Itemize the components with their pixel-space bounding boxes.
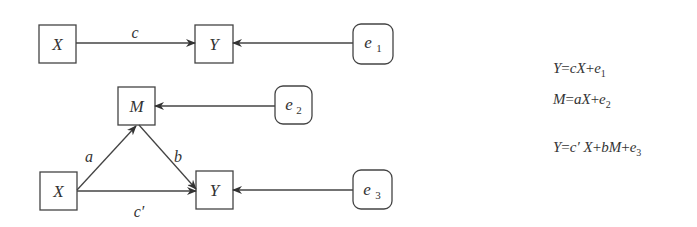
path-b-arrow [139,125,196,189]
path-b-label: b [174,148,182,165]
node-e1-label: e [364,33,372,52]
eq2-lhs: M [553,91,566,107]
eq2-equals: = [566,91,574,107]
node-e2 [275,86,312,124]
node-e1 [353,24,393,64]
eq2-var: X [581,91,590,107]
eq2-error: e [599,91,606,107]
node-y-2-label: Y [210,181,221,200]
eq1-equals: = [561,60,569,76]
eq1-error: e [594,60,601,76]
node-y-1-label: Y [209,35,220,54]
node-e3-label: e [363,180,371,199]
equation-2: M=aX+e2 [553,91,611,110]
eq3-plus-1: + [593,139,601,155]
eq3-term-bm: bM [601,139,621,155]
eq3-plus-2: + [621,139,629,155]
path-c-prime-label: c′ [134,203,145,220]
eq2-error-sub: 2 [606,99,611,110]
node-x-2-label: X [52,182,64,201]
path-a-label: a [85,148,93,165]
mediation-diagram: X Y e 1 c M e 2 X Y e 3 a b c′ [0,0,697,227]
node-e2-label: e [285,95,293,114]
model-1: X Y e 1 c [39,24,393,64]
node-m-label: M [128,97,144,116]
node-e3-subscript: 3 [375,189,381,201]
eq1-error-sub: 1 [601,68,606,79]
node-x-1-label: X [51,35,63,54]
equation-1: Y=cX+e1 [553,60,606,79]
node-e1-subscript: 1 [376,42,382,54]
eq3-error-sub: 3 [636,147,641,158]
eq1-plus: + [586,60,594,76]
model-2: M e 2 X Y e 3 a b c′ [40,86,392,220]
eq1-var: X [576,60,585,76]
eq3-equals: = [561,139,569,155]
path-c-label: c [131,24,138,41]
equation-3: Y=c′ X+bM+e3 [553,139,641,158]
eq3-coef-c: c′ [570,139,580,155]
node-e3 [353,170,392,209]
eq3-var-x: X [580,139,593,155]
eq2-plus: + [591,91,599,107]
node-e2-subscript: 2 [296,104,302,116]
